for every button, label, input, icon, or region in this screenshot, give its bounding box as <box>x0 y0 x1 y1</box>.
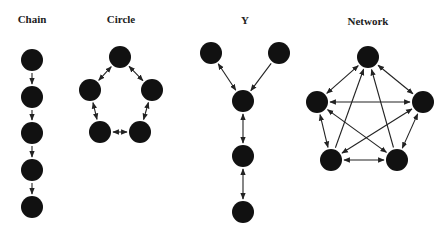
circle-edge <box>93 103 97 120</box>
circle-node <box>141 79 163 101</box>
y-title: Y <box>241 14 249 26</box>
chain-node <box>21 159 43 181</box>
network-edge <box>378 65 413 94</box>
y-node <box>232 201 254 223</box>
circle-node <box>129 121 151 143</box>
network-edge <box>372 70 394 148</box>
network-title: Network <box>348 15 389 27</box>
network-node <box>412 91 434 113</box>
y-node <box>232 90 254 112</box>
network-edge <box>342 109 412 153</box>
circle-node <box>89 121 111 143</box>
circle-title: Circle <box>107 13 136 25</box>
chain-node <box>21 196 43 218</box>
network-edge <box>320 115 328 148</box>
circle-edge <box>99 67 112 81</box>
chain-title: Chain <box>18 13 47 25</box>
network-node <box>306 91 328 113</box>
chain-node <box>21 49 43 71</box>
network-edge <box>327 66 359 94</box>
chain-node <box>21 86 43 108</box>
y-node <box>232 145 254 167</box>
network-node <box>386 149 408 171</box>
circle-node <box>109 46 131 68</box>
network-graphs <box>0 0 443 233</box>
circle-edge <box>129 66 143 80</box>
network-node <box>357 46 379 68</box>
network-edge <box>402 114 417 148</box>
chain-node <box>21 122 43 144</box>
network-edge <box>335 69 363 148</box>
y-edge <box>251 63 271 90</box>
communication-networks-diagram: Chain Circle Y Network <box>0 0 443 233</box>
y-node <box>200 42 222 64</box>
circle-node <box>79 79 101 101</box>
y-edge <box>218 64 236 90</box>
y-node <box>268 42 290 64</box>
network-node <box>320 149 342 171</box>
circle-edge <box>144 102 149 119</box>
